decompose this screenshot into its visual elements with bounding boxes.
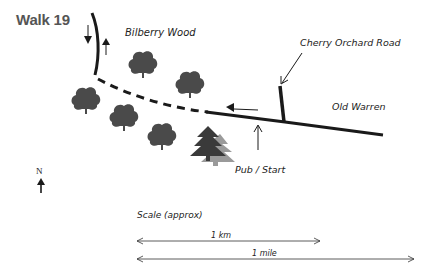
tree-icon: [176, 71, 205, 98]
scale-km-label: 1 km: [211, 231, 231, 240]
label-bilberry-wood: Bilberry Wood: [125, 27, 196, 38]
tree-icon: [110, 104, 139, 131]
pine-tree-icon: [190, 126, 235, 166]
arrow-down-icon: [84, 25, 92, 44]
road-main: [206, 112, 383, 135]
road-cherry-orchard: [280, 86, 284, 122]
label-cherry-orchard-road: Cherry Orchard Road: [300, 37, 401, 48]
tree-icon: [148, 123, 177, 150]
north-label: N: [36, 166, 43, 176]
north-arrow-icon: [37, 178, 45, 193]
scale-mile-label: 1 mile: [252, 249, 277, 258]
label-pub-start: Pub / Start: [235, 164, 285, 175]
arrow-start-icon: [254, 125, 262, 150]
tree-icon: [129, 51, 158, 78]
label-old-warren: Old Warren: [332, 101, 386, 112]
arrow-up-icon: [102, 38, 110, 55]
pointer-arrow-icon: [281, 53, 302, 84]
scale-heading: Scale (approx): [137, 210, 203, 220]
path-curve: [92, 13, 98, 75]
tree-icon: [72, 87, 101, 114]
arrow-left-icon: [226, 103, 258, 112]
